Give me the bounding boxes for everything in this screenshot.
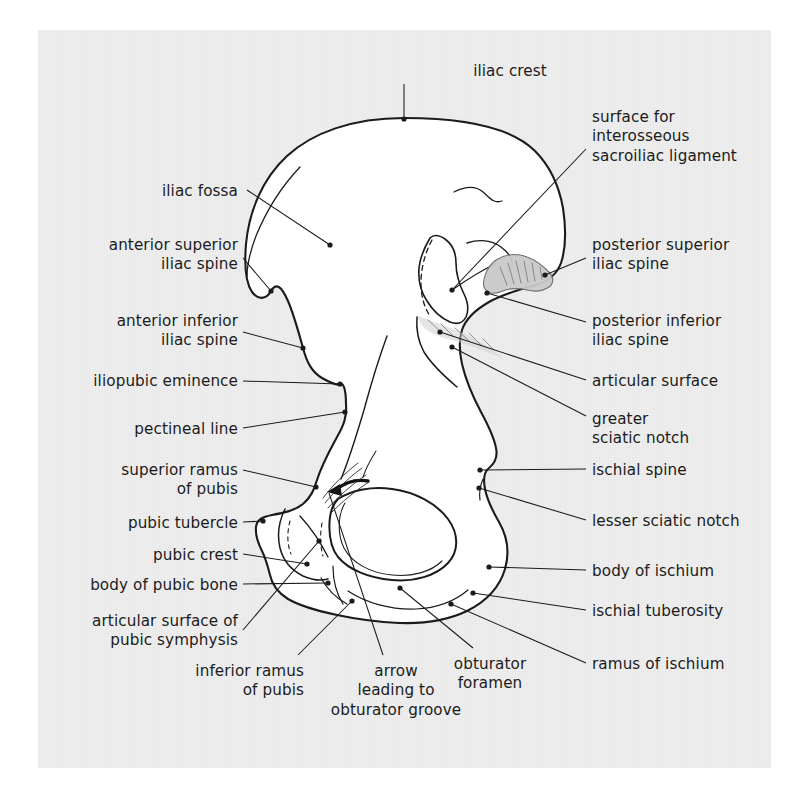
- dot-iliac-crest: [401, 116, 406, 121]
- dot-articular-surface: [437, 329, 442, 334]
- leader-posterior-inferior-iliac-spine: [487, 293, 586, 322]
- dot-iliac-fossa: [327, 242, 332, 247]
- label-lesser-sciatic-notch: lesser sciatic notch: [592, 512, 792, 531]
- label-anterior-superior-iliac-spine: anterior superior iliac spine: [20, 236, 238, 275]
- label-ischial-spine: ischial spine: [592, 461, 792, 480]
- label-pubic-crest: pubic crest: [20, 546, 238, 565]
- label-superior-ramus-of-pubis: superior ramus of pubis: [20, 461, 238, 500]
- label-articular-surface-pubic-symphysis: articular surface of pubic symphysis: [20, 612, 238, 651]
- dot-obturator-foramen: [397, 585, 402, 590]
- dot-lesser-sciatic-notch: [476, 485, 481, 490]
- dot-ramus-of-ischium: [448, 601, 453, 606]
- label-anterior-inferior-iliac-spine: anterior inferior iliac spine: [20, 312, 238, 351]
- label-greater-sciatic-notch: greater sciatic notch: [592, 410, 792, 449]
- dot-articular-surface-pubic-symphysis: [316, 538, 321, 543]
- dot-inferior-ramus-of-pubis: [349, 598, 354, 603]
- leader-anterior-inferior-iliac-spine: [243, 332, 303, 348]
- dot-anterior-inferior-iliac-spine: [300, 345, 305, 350]
- bone-outline: [245, 118, 565, 623]
- label-surface-interosseous: surface for interosseous sacroiliac liga…: [592, 108, 792, 166]
- dot-ischial-tuberosity: [470, 590, 475, 595]
- os-coxae-silhouette: [245, 118, 565, 623]
- dot-posterior-inferior-iliac-spine: [484, 290, 489, 295]
- label-iliac-crest: iliac crest: [430, 62, 590, 81]
- leader-ischial-spine: [480, 469, 586, 470]
- label-iliac-fossa: iliac fossa: [20, 182, 238, 201]
- label-pectineal-line: pectineal line: [20, 420, 238, 439]
- leader-iliopubic-eminence: [243, 381, 340, 384]
- label-ramus-of-ischium: ramus of ischium: [592, 655, 792, 674]
- label-ischial-tuberosity: ischial tuberosity: [592, 602, 792, 621]
- dot-surface-interosseous: [449, 287, 454, 292]
- label-iliopubic-eminence: iliopubic eminence: [20, 372, 238, 391]
- dot-body-of-ischium: [486, 564, 491, 569]
- dot-superior-ramus-of-pubis: [313, 484, 318, 489]
- label-obturator-foramen: obturator foramen: [430, 655, 550, 694]
- dot-body-of-pubic-bone: [325, 580, 330, 585]
- label-body-of-ischium: body of ischium: [592, 562, 792, 581]
- label-posterior-superior-iliac-spine: posterior superior iliac spine: [592, 236, 792, 275]
- leader-pectineal-line: [243, 412, 345, 428]
- dot-iliopubic-eminence: [337, 381, 342, 386]
- dot-posterior-superior-iliac-spine: [542, 272, 547, 277]
- label-body-of-pubic-bone: body of pubic bone: [20, 576, 238, 595]
- label-inferior-ramus-of-pubis: inferior ramus of pubis: [110, 662, 304, 701]
- label-posterior-inferior-iliac-spine: posterior inferior iliac spine: [592, 312, 792, 351]
- dot-pubic-tubercle: [260, 518, 265, 523]
- label-pubic-tubercle: pubic tubercle: [20, 514, 238, 533]
- dot-pubic-crest: [304, 561, 309, 566]
- dot-pectineal-line: [342, 409, 347, 414]
- dot-ischial-spine: [477, 467, 482, 472]
- leader-superior-ramus-of-pubis: [243, 470, 316, 487]
- dot-anterior-superior-iliac-spine: [268, 288, 273, 293]
- dot-greater-sciatic-notch: [449, 344, 454, 349]
- leader-ischial-tuberosity: [473, 593, 586, 610]
- label-articular-surface: articular surface: [592, 372, 792, 391]
- figure-page: iliac crestsurface for interosseous sacr…: [0, 0, 798, 795]
